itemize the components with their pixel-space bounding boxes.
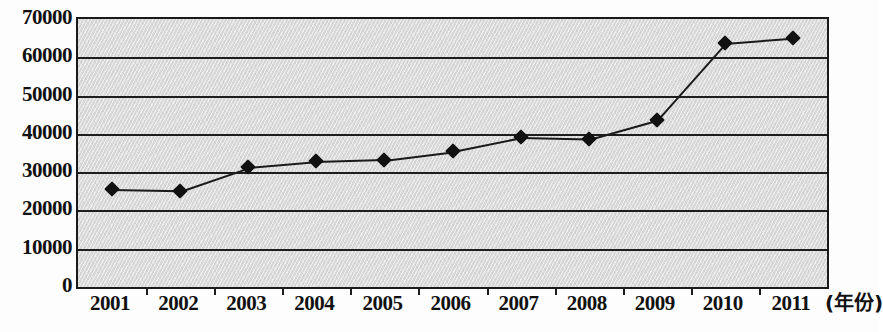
x-axis-tick-label: 2008 xyxy=(567,292,607,315)
data-point-marker xyxy=(309,154,325,170)
y-axis-tick-label: 50000 xyxy=(2,83,72,104)
y-axis-tick-label: 40000 xyxy=(2,121,72,142)
y-axis-tick-label: 60000 xyxy=(2,45,72,66)
x-axis-tick-label: 2007 xyxy=(499,292,539,315)
x-axis-tick-label: 2011 xyxy=(772,292,811,315)
x-axis-tick-labels: 2001200220032004200520062007200820092010… xyxy=(76,292,825,326)
x-axis-tick-label: 2004 xyxy=(294,292,334,315)
data-series-layer xyxy=(78,19,827,287)
line-segment xyxy=(248,161,316,169)
line-segment xyxy=(521,137,589,141)
line-segment xyxy=(725,38,793,45)
x-axis-tick-label: 2003 xyxy=(226,292,266,315)
data-point-marker xyxy=(240,159,256,175)
plot-area xyxy=(76,17,829,289)
data-point-marker xyxy=(513,130,529,146)
data-point-marker xyxy=(785,30,801,46)
x-axis-tick-label: 2010 xyxy=(703,292,743,315)
x-axis-tick-label: 2005 xyxy=(362,292,402,315)
line-segment xyxy=(316,160,384,164)
x-axis-tick-label: 2009 xyxy=(635,292,675,315)
data-point-marker xyxy=(581,131,597,147)
line-segment xyxy=(180,167,249,192)
data-point-marker xyxy=(445,143,461,159)
y-axis-tick-label: 10000 xyxy=(2,236,72,257)
line-segment xyxy=(589,120,658,141)
x-axis-title: (年份) xyxy=(825,292,883,314)
x-axis-tick-label: 2002 xyxy=(158,292,198,315)
y-axis-tick-labels: 700006000050000400003000020000100000 xyxy=(0,0,72,332)
y-axis-tick-label: 0 xyxy=(2,275,72,296)
data-point-marker xyxy=(104,182,120,198)
x-axis-tick-label: 2001 xyxy=(90,292,130,315)
line-segment xyxy=(453,137,521,153)
x-axis-tick-label: 2006 xyxy=(431,292,471,315)
y-axis-tick-label: 30000 xyxy=(2,160,72,181)
y-axis-tick-label: 20000 xyxy=(2,198,72,219)
line-segment xyxy=(112,189,180,192)
y-axis-tick-label: 70000 xyxy=(2,7,72,28)
data-point-marker xyxy=(172,183,188,199)
data-point-marker xyxy=(377,152,393,168)
line-segment xyxy=(384,151,452,161)
line-segment xyxy=(657,43,727,121)
